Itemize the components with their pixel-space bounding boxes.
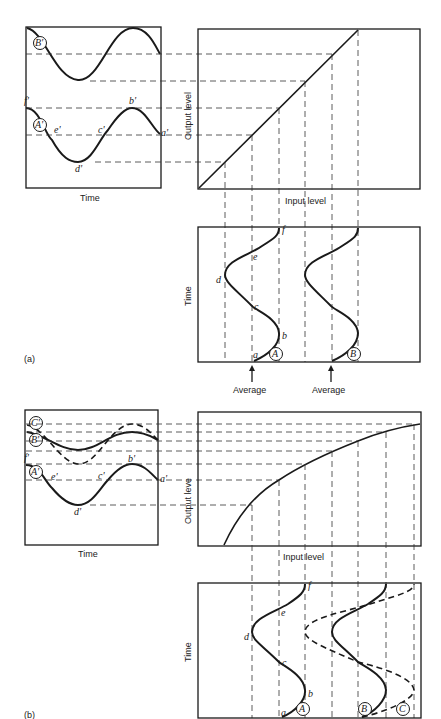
- point-b-b: b: [308, 688, 313, 699]
- average-marker-b: Average: [312, 365, 345, 395]
- point-e-b: e: [281, 607, 286, 618]
- point-a-prime: a': [161, 127, 169, 138]
- point-b-prime: b': [129, 95, 137, 106]
- time-axis-label-b: Time: [183, 642, 193, 662]
- arrow-up-icon: [249, 365, 255, 371]
- output-level-label-b: Output leve: [183, 478, 193, 524]
- point-a-prime-b: a': [160, 473, 168, 484]
- wave-label-a-prime: A': [34, 119, 44, 130]
- point-d-prime: d': [75, 163, 83, 174]
- panel-b: C' B' A' f' e' d' c' b' a' Time Output l…: [24, 410, 421, 719]
- point-b: b: [282, 330, 287, 341]
- point-c-prime: c': [98, 124, 105, 135]
- panel-a-label: (a): [24, 354, 35, 364]
- panel-a: B' A' f' e' d' c' b' a' Time Output leve…: [24, 27, 420, 395]
- transfer-function-box-a: [198, 29, 420, 189]
- average-marker-a: Average: [233, 365, 266, 395]
- compressive-transfer-curve: [224, 424, 420, 545]
- svg-text:Average: Average: [312, 385, 345, 395]
- output-level-label-a: Output level: [183, 92, 193, 140]
- point-f-prime: f': [24, 95, 30, 106]
- panel-b-label: (b): [24, 710, 35, 719]
- point-d-b: d: [244, 631, 250, 642]
- point-f-b: f: [308, 580, 312, 591]
- wave-a-prime-b: [26, 464, 158, 505]
- arrow-up-icon: [328, 365, 334, 371]
- point-e: e: [253, 251, 258, 262]
- point-e-prime: e': [54, 124, 61, 135]
- point-d: d: [216, 274, 222, 285]
- point-c: c: [254, 301, 259, 312]
- waveform-time-label-a: Time: [80, 193, 100, 203]
- point-a: a: [253, 349, 258, 360]
- input-wave-b: [305, 228, 358, 361]
- svg-text:Average: Average: [233, 385, 266, 395]
- output-waveform-box-a: [26, 27, 161, 188]
- wave-label-c-prime: C': [31, 417, 41, 428]
- input-wave-b-b: [332, 584, 386, 717]
- input-wave-label-c-b: C: [399, 703, 406, 714]
- point-f-prime-b: f': [24, 452, 30, 463]
- time-axis-label-a: Time: [183, 286, 193, 306]
- input-level-label-b: Input level: [283, 552, 324, 562]
- wave-label-b-prime-b: B': [31, 434, 40, 445]
- point-c-prime-b: c': [98, 470, 105, 481]
- input-wave-label-b: B: [350, 348, 356, 359]
- point-f: f: [282, 224, 286, 235]
- input-wave-a-b: [252, 584, 305, 717]
- wave-c-prime: [27, 424, 158, 464]
- wave-label-b-prime: B': [35, 37, 44, 48]
- point-c-b: c: [282, 657, 287, 668]
- input-wave-label-b-b: B: [361, 703, 367, 714]
- compression-diagram: B' A' f' e' d' c' b' a' Time Output leve…: [0, 0, 441, 719]
- point-b-prime-b: b': [128, 453, 136, 464]
- input-wave-c-b: [305, 584, 414, 717]
- input-level-label-a: Input level: [285, 196, 326, 206]
- wave-label-a-prime-b: A': [30, 466, 40, 477]
- input-wave-label-a-b: A: [298, 703, 306, 714]
- waveform-time-label-b: Time: [78, 549, 98, 559]
- input-time-box-a: [198, 227, 420, 362]
- point-a-b: a: [281, 707, 286, 718]
- input-wave-label-a: A: [271, 348, 279, 359]
- point-d-prime-b: d': [74, 506, 82, 517]
